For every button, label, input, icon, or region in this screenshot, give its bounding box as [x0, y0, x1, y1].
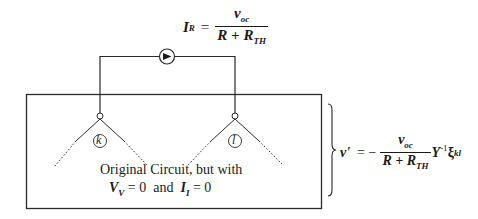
equation-vprime: v' = − voc R + RTH Y-1 ξkl [340, 133, 461, 174]
node-k-label: k [96, 133, 101, 148]
equation-ir: IR = voc R + RTH [183, 6, 268, 49]
current-source-icon [160, 49, 175, 64]
fraction: voc R + RTH [215, 6, 268, 49]
wire-left [100, 57, 160, 117]
node-l-label: l [232, 133, 235, 148]
caption-line1: Original Circuit, but with [100, 162, 242, 178]
caption-line2: VV = 0 and II = 0 [109, 180, 211, 198]
right-brace [328, 104, 336, 196]
wire-right [174, 57, 235, 117]
fraction: voc R + RTH [380, 133, 430, 174]
